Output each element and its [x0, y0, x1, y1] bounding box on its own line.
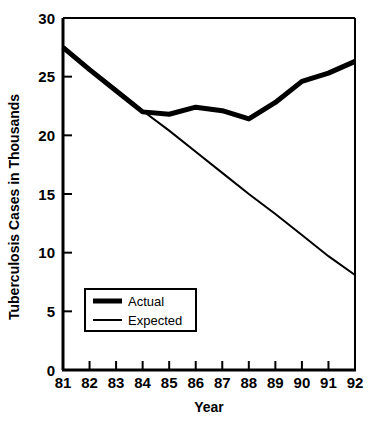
x-axis-title: Year [194, 399, 224, 415]
y-tick-label-10: 10 [38, 244, 55, 261]
legend: Actual Expected [85, 289, 196, 331]
legend-label-actual: Actual [128, 294, 164, 309]
x-tick-label-85: 85 [161, 374, 178, 391]
legend-label-expected: Expected [128, 313, 182, 328]
y-tick-label-5: 5 [47, 303, 55, 320]
x-tick-label-90: 90 [294, 374, 311, 391]
chart-canvas: 051015202530 818283848586878889909192 Ac… [0, 0, 374, 423]
x-tick-label-88: 88 [240, 374, 257, 391]
y-tick-label-25: 25 [38, 68, 55, 85]
y-tick-label-30: 30 [38, 10, 55, 27]
x-tick-label-83: 83 [108, 374, 125, 391]
x-tick-label-87: 87 [214, 374, 231, 391]
x-tick-label-92: 92 [347, 374, 364, 391]
x-tick-label-81: 81 [55, 374, 72, 391]
tuberculosis-cases-line-chart: 051015202530 818283848586878889909192 Ac… [0, 0, 374, 423]
chart-background [0, 0, 374, 423]
y-tick-label-20: 20 [38, 127, 55, 144]
y-tick-label-15: 15 [38, 186, 55, 203]
x-tick-label-89: 89 [267, 374, 284, 391]
x-tick-label-84: 84 [134, 374, 151, 391]
y-axis-title: Tuberculosis Cases in Thousands [6, 94, 22, 320]
x-tick-label-91: 91 [320, 374, 337, 391]
x-tick-label-82: 82 [81, 374, 98, 391]
x-tick-label-86: 86 [187, 374, 204, 391]
